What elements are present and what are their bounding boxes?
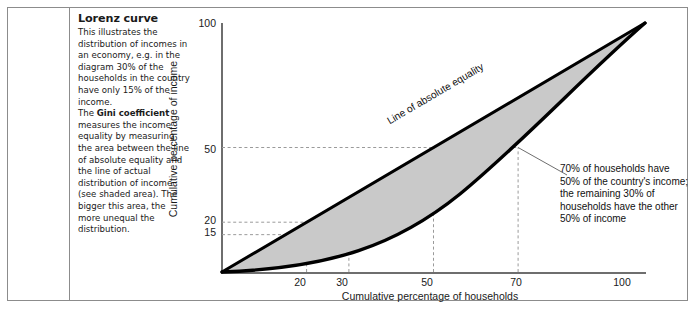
callout-text: 70% of households have 50% of the countr… (560, 163, 692, 226)
panel-divider (69, 8, 70, 300)
y-tick-100: 100 (190, 17, 216, 29)
x-tick-100: 100 (607, 276, 637, 288)
x-axis-title: Cumulative percentage of households (300, 290, 560, 302)
explainer-para2-lead: The (78, 108, 97, 118)
x-tick-70: 70 (501, 276, 531, 288)
lorenz-plot-svg (222, 23, 645, 272)
x-tick-50: 50 (412, 276, 442, 288)
callout-annotation: 70% of households have 50% of the countr… (560, 163, 692, 226)
x-tick-30: 30 (327, 276, 357, 288)
y-tick-50: 50 (190, 143, 216, 155)
x-tick-20: 20 (285, 276, 315, 288)
y-tick-15: 15 (190, 226, 216, 238)
chart-area: 100 50 20 15 20 30 50 70 100 Cumulative … (150, 8, 680, 300)
y-tick-20: 20 (190, 214, 216, 226)
lorenz-curve-figure: Lorenz curve This illustrates the distri… (0, 0, 697, 315)
y-axis-title: Cumulative percentage of income (167, 54, 179, 224)
x-axis-line (221, 272, 646, 274)
plot-region (222, 23, 645, 272)
